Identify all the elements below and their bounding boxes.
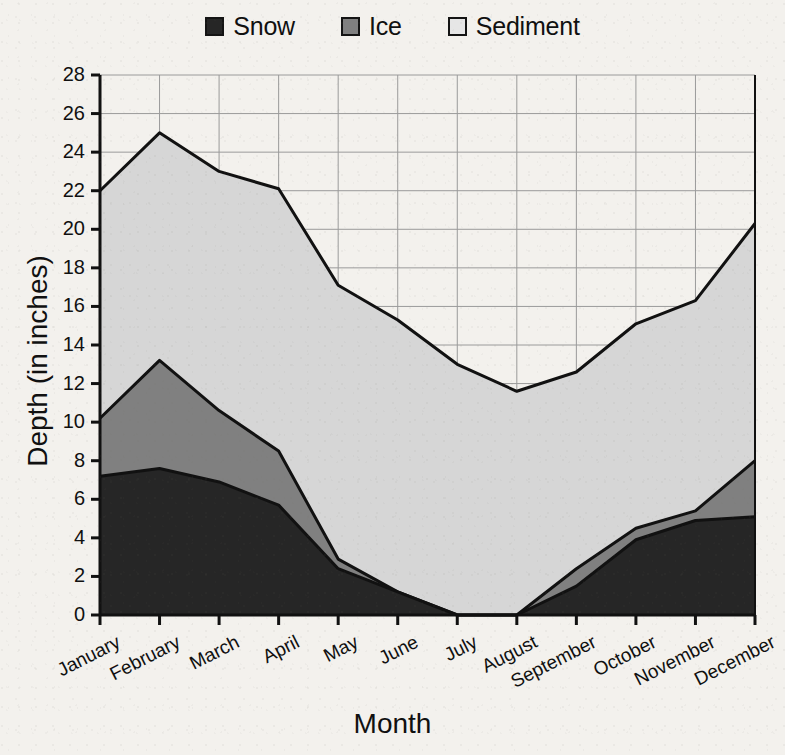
- x-tick-labels: JanuaryFebruaryMarchAprilMayJuneJulyAugu…: [0, 0, 785, 755]
- area-chart: Snow Ice Sediment Depth (in inches) Mont…: [0, 0, 785, 755]
